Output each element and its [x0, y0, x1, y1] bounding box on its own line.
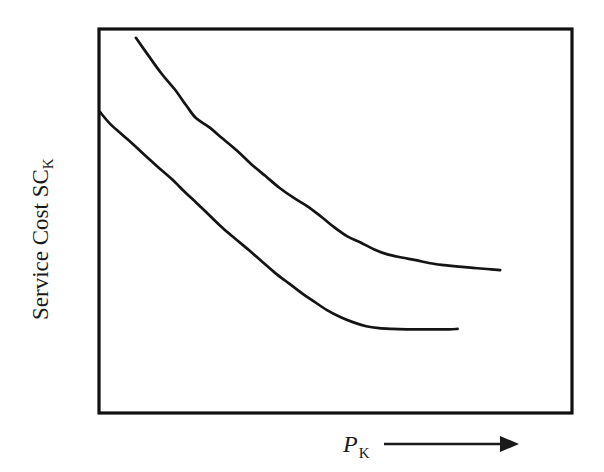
x-axis-label-subscript: K: [359, 445, 370, 461]
y-axis-label-text: Service Cost SCK: [28, 158, 56, 320]
y-axis-label: Service Cost SCK: [28, 158, 56, 320]
plot-frame: [99, 29, 572, 413]
chart-svg: Service Cost SCK PK: [0, 0, 604, 472]
x-axis-label: PK: [342, 431, 519, 461]
figure-container: Service Cost SCK PK: [0, 0, 604, 472]
right-arrow-icon: [384, 436, 519, 452]
x-axis-label-text: PK: [342, 431, 370, 461]
x-axis-label-main: P: [342, 431, 358, 457]
y-axis-label-subscript: K: [40, 158, 56, 169]
y-axis-label-main: Service Cost SC: [28, 169, 53, 320]
